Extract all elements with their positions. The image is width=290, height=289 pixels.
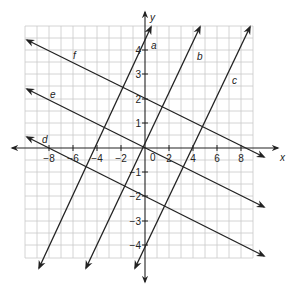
- line-d-label: d: [42, 134, 48, 145]
- origin-label: 0: [150, 152, 156, 163]
- line-a-label: a: [151, 40, 157, 51]
- coordinate-graph: −8 −6 −4 −2 2 4 6 8 0 4 3 2 1 −1 −2 −3 −…: [0, 0, 290, 289]
- x-tick: 4: [190, 153, 196, 164]
- x-tick: −4: [91, 153, 103, 164]
- x-tick-labels: −8 −6 −4 −2 2 4 6 8: [43, 153, 244, 164]
- x-tick: 8: [238, 153, 244, 164]
- x-tick: −2: [115, 153, 127, 164]
- x-axis-label: x: [279, 152, 286, 163]
- y-tick: 1: [135, 118, 141, 129]
- x-tick: 6: [214, 153, 220, 164]
- y-axis-label: y: [149, 12, 156, 23]
- y-tick: −3: [130, 216, 142, 227]
- y-tick: −2: [130, 191, 142, 202]
- y-tick: −4: [130, 240, 142, 251]
- line-c-label: c: [232, 75, 237, 86]
- x-tick: −8: [43, 153, 55, 164]
- y-tick: 3: [135, 69, 141, 80]
- line-e-label: e: [50, 89, 56, 100]
- line-b-label: b: [197, 51, 203, 62]
- line-f-label: f: [73, 50, 77, 61]
